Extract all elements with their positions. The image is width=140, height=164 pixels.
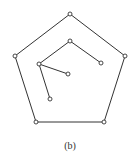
figure-caption: (b): [0, 140, 140, 151]
outer_cycle-edge: [70, 14, 125, 56]
inner_tree-edge: [39, 64, 50, 99]
inner_tree-node: [48, 97, 52, 101]
outer_cycle-node: [34, 120, 38, 124]
outer_cycle-node: [68, 12, 72, 16]
inner_tree-edge: [39, 41, 70, 64]
outer_cycle-node: [102, 120, 106, 124]
outer_cycle-node: [123, 54, 127, 58]
inner_tree-node: [66, 72, 70, 76]
inner_tree-node: [68, 39, 72, 43]
inner_tree-edge: [39, 64, 68, 74]
outer_cycle-edge: [15, 56, 36, 122]
outer_cycle-node: [13, 54, 17, 58]
edges: [15, 14, 125, 122]
outer_cycle-edge: [15, 14, 70, 56]
inner_tree-node: [37, 62, 41, 66]
inner_tree-edge: [70, 41, 101, 63]
outer_cycle-edge: [104, 56, 125, 122]
nodes: [13, 12, 127, 124]
inner_tree-node: [99, 61, 103, 65]
